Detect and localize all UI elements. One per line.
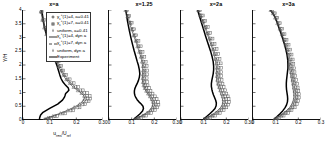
panel-x-a: x=a 00.10.20.3000.511.522.533.54 Y/H urm… xyxy=(0,0,108,154)
legend-item: yc+(1)=7, a=0.41 xyxy=(48,21,89,28)
x-tick-label: 0.2 xyxy=(295,121,301,126)
y-tick-label: 3 xyxy=(19,35,22,40)
plot-area: 00.10.20.30 xyxy=(180,10,248,120)
legend-item: uniform, dyn a xyxy=(48,47,89,54)
x-axis-label-sub2: ref xyxy=(67,134,71,138)
figure-root: x=a 00.10.20.3000.511.522.533.54 Y/H urm… xyxy=(0,0,325,154)
x-axis-label: urms/Uref xyxy=(53,130,70,138)
y-tick-label: 1.5 xyxy=(15,76,21,81)
panel-x-1-25: x=1.25 00.10.20.30 xyxy=(108,0,180,154)
plot-canvas xyxy=(253,10,321,120)
y-tick-label: 3.5 xyxy=(15,21,21,26)
x-tick-label: 0.1 xyxy=(200,121,206,126)
series-line xyxy=(125,10,152,119)
x-tick-label: 0.2 xyxy=(223,121,229,126)
panel-title: x=1.25 xyxy=(108,1,180,7)
x-tick-label: 0 xyxy=(22,121,25,126)
y-tick-label: 0.5 xyxy=(15,104,21,109)
plot-canvas xyxy=(181,10,249,120)
legend-item: yc+(1)=7, dyn a xyxy=(48,40,89,47)
panel-x-2a: x=2a 00.10.20.30 xyxy=(180,0,252,154)
panel-title: x=2a xyxy=(180,1,252,7)
panel-title: x=a xyxy=(0,1,108,7)
solid-line-icon xyxy=(48,34,57,41)
plot-area: 00.10.20.3 xyxy=(252,10,320,120)
y-axis-label: Y/H xyxy=(2,54,8,62)
x-tick-label: 0.30 xyxy=(99,121,108,126)
legend: yc+(1)=4, a=0.41 yc+(1)=7, a=0.41 unifor… xyxy=(46,12,91,62)
thick-solid-line-icon xyxy=(48,54,57,61)
series-line xyxy=(126,10,144,120)
plot-area: 00.10.20.30 xyxy=(108,10,176,120)
series-line xyxy=(198,10,217,120)
x-tick-label: 0.2 xyxy=(151,121,157,126)
x-tick-label: 0 xyxy=(180,121,183,126)
panel-title: x=3a xyxy=(252,1,325,7)
plot-canvas xyxy=(109,10,177,120)
x-tick-label: 0 xyxy=(108,121,111,126)
series-line xyxy=(270,10,288,120)
legend-item: Experiment xyxy=(48,54,89,61)
x-tick-label: 0 xyxy=(252,121,255,126)
dashed-line-icon xyxy=(48,40,57,47)
legend-label: Experiment xyxy=(57,54,79,59)
y-tick-label: 2.5 xyxy=(15,49,21,54)
legend-label: uniform, dyn a xyxy=(57,48,85,53)
triangle-marker-icon xyxy=(48,47,57,54)
triangle-marker-icon xyxy=(48,27,57,34)
panel-x-3a: x=3a 00.10.20.3 xyxy=(252,0,325,154)
x-tick-label: 0.3 xyxy=(318,121,324,126)
x-tick-label: 0.1 xyxy=(272,121,278,126)
x-tick-label: 0.2 xyxy=(73,121,79,126)
square-marker-icon xyxy=(48,21,57,28)
x-tick-label: 0.1 xyxy=(46,121,52,126)
circle-marker-icon xyxy=(48,14,57,21)
y-tick-label: 4 xyxy=(19,8,22,13)
y-tick-label: 0 xyxy=(19,118,22,123)
y-tick-label: 1 xyxy=(19,90,22,95)
y-tick-label: 2 xyxy=(19,63,22,68)
x-tick-label: 0.1 xyxy=(128,121,134,126)
